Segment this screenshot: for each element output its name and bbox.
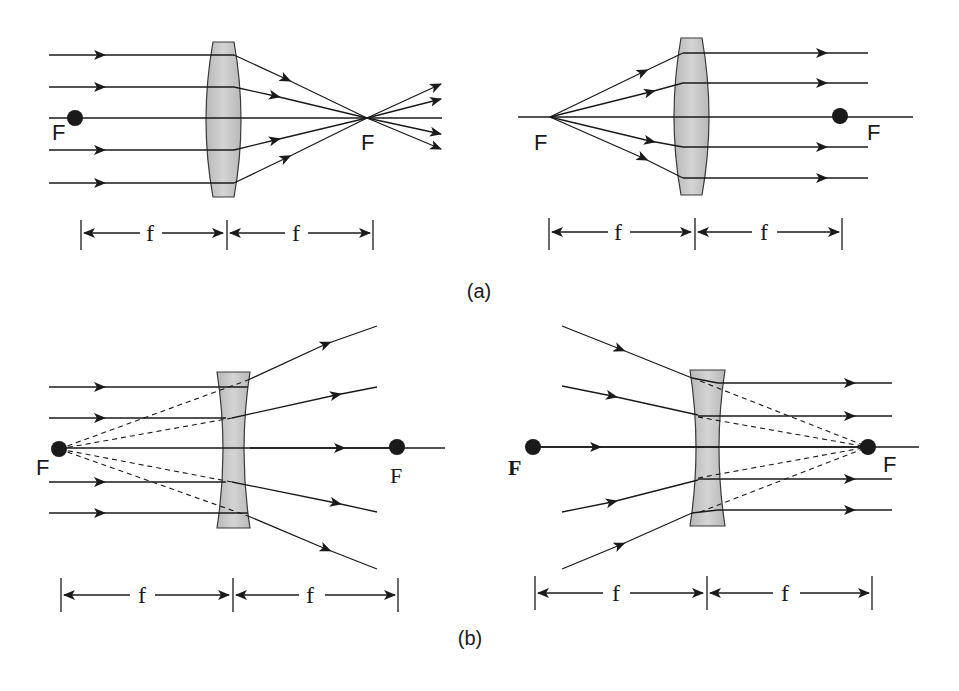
dimension-label: f: [306, 582, 314, 608]
panel-b-right: [525, 326, 919, 610]
focal-label: F: [52, 120, 65, 145]
focal-label: F: [36, 455, 49, 480]
dimension-label: f: [781, 580, 789, 606]
panel-caption-b: (b): [458, 627, 482, 649]
dimension-label: f: [760, 219, 768, 245]
convex-lens: [206, 42, 241, 197]
dimension-label: f: [292, 220, 300, 246]
dimension-label: f: [612, 580, 620, 606]
focal-point-dot: [860, 439, 876, 455]
focal-label: F: [883, 452, 896, 477]
lens-diagram: F F f f F F f f (a): [0, 0, 959, 691]
focal-label: F: [390, 463, 402, 488]
concave-lens: [217, 372, 250, 528]
focal-label: F: [361, 130, 374, 155]
focal-label: F: [534, 130, 547, 155]
panel-a-left: [49, 42, 442, 250]
panel-caption-a: (a): [467, 280, 491, 302]
focal-point-dot: [832, 108, 848, 124]
dimension-label: f: [146, 220, 154, 246]
focal-label: F: [867, 120, 880, 145]
focal-point-dot: [51, 441, 67, 457]
focal-point-dot: [389, 439, 405, 455]
focal-point-dot: [525, 439, 541, 455]
dimension-label: f: [614, 219, 622, 245]
focal-label: F: [508, 455, 521, 480]
concave-lens: [690, 370, 725, 526]
panel-b-left: [49, 326, 445, 612]
focal-point-dot: [67, 110, 83, 126]
dimension-label: f: [138, 582, 146, 608]
panel-a-right: [518, 38, 913, 250]
